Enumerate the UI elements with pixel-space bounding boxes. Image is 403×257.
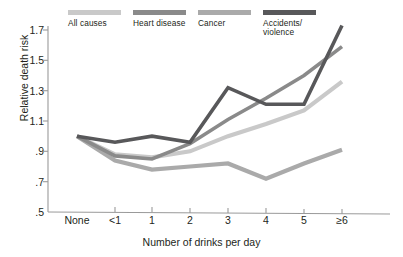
y-axis-ticks xyxy=(43,30,48,182)
axis-lines xyxy=(43,26,390,214)
series-line-accidents-violence xyxy=(77,25,342,142)
series-line-all-causes xyxy=(77,82,342,158)
plot-area xyxy=(0,0,403,257)
data-series-group xyxy=(77,25,342,178)
x-axis-line xyxy=(48,212,390,214)
chart-container: All causes Heart disease Cancer Accident… xyxy=(0,0,403,257)
